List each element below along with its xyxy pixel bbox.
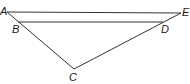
- segment-ae: [7, 12, 181, 13]
- segment-ac: [7, 12, 74, 69]
- label-b: B: [12, 23, 19, 35]
- label-a: A: [0, 5, 7, 17]
- geometry-diagram: A B C D E: [0, 0, 190, 84]
- label-c: C: [69, 71, 77, 83]
- label-d: D: [161, 23, 169, 35]
- segment-ce: [74, 13, 181, 69]
- label-e: E: [182, 6, 190, 18]
